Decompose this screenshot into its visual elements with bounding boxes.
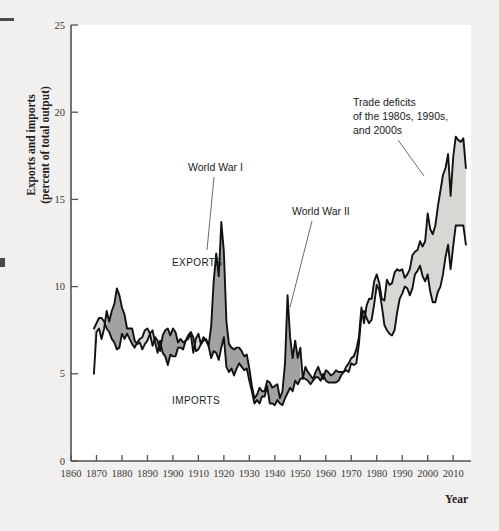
world-war-1-annotation: World War I [188, 161, 243, 173]
world-war-2-annotation: World War II [292, 205, 350, 217]
page-edge-mark-top [0, 18, 14, 21]
y-axis-title-line2: (percent of total output) [39, 86, 52, 204]
x-tick-label: 1950 [290, 468, 311, 479]
x-tick-label: 1940 [264, 468, 285, 479]
x-tick-label: 1910 [188, 468, 209, 479]
x-tick-label: 2010 [443, 468, 464, 479]
y-tick-label: 5 [60, 368, 65, 379]
x-tick-label: 1920 [213, 468, 234, 479]
trade-deficits-annotation-line3: and 2000s [353, 124, 402, 136]
x-tick-label: 1930 [239, 468, 260, 479]
exports-label: EXPORTS [172, 257, 222, 268]
x-tick-label: 1990 [392, 468, 413, 479]
y-tick-label: 25 [55, 20, 66, 31]
x-tick-label: 1870 [86, 468, 107, 479]
x-tick-label: 1960 [315, 468, 336, 479]
x-tick-label: 1890 [137, 468, 158, 479]
y-tick-label: 10 [55, 281, 66, 292]
x-tick-label: 2000 [417, 468, 438, 479]
y-tick-label: 20 [55, 107, 66, 118]
y-axis-title-line1: Exports and imports [25, 94, 38, 196]
x-tick-label: 1970 [341, 468, 362, 479]
x-tick-label: 1980 [366, 468, 387, 479]
imports-label: IMPORTS [172, 395, 220, 406]
trade-deficits-annotation-line2: of the 1980s, 1990s, [353, 110, 448, 122]
page-edge-mark-middle [0, 258, 5, 267]
y-tick-label: 0 [60, 456, 65, 467]
y-tick-label: 15 [55, 194, 66, 205]
x-axis-title: Year [445, 493, 468, 505]
figure-container: 0510152025 18601870188018901900191019201… [0, 0, 499, 531]
x-tick-label: 1860 [61, 468, 82, 479]
trade-deficits-annotation-line1: Trade deficits [353, 96, 416, 108]
exports-imports-area-chart: 0510152025 18601870188018901900191019201… [0, 0, 499, 531]
x-tick-label: 1900 [162, 468, 183, 479]
x-tick-label: 1880 [111, 468, 132, 479]
